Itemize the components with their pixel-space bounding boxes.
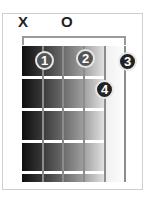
finger-marker-1: 1 <box>35 51 54 70</box>
finger-marker-3: 3 <box>118 52 137 71</box>
nut <box>22 36 126 45</box>
string-line <box>62 46 64 182</box>
finger-marker-2: 2 <box>76 49 95 68</box>
string-line <box>104 46 106 182</box>
open-string-marker: O <box>61 14 73 30</box>
muted-string-marker: X <box>18 14 28 30</box>
finger-marker-4: 4 <box>95 80 114 99</box>
